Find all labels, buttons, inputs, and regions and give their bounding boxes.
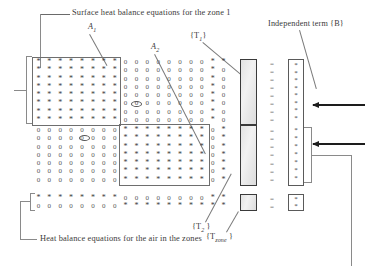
matrix-cell: 0 <box>218 66 229 74</box>
matrix-cell: * <box>98 194 109 202</box>
matrix-cell: 0 <box>218 91 229 99</box>
right-bracket-stem <box>311 155 351 156</box>
matrix-cell: 0 <box>77 143 88 151</box>
matrix-cell: 0 <box>142 116 153 124</box>
matrix-cell: 0 <box>196 116 207 124</box>
block1-bracket-vertical <box>26 56 27 124</box>
equals-sign: = <box>270 127 274 135</box>
matrix-cell: 0 <box>98 167 109 175</box>
matrix-cell: 0 <box>175 108 186 116</box>
block1-bracket-stem <box>14 90 26 91</box>
vector-t-lower <box>240 125 257 186</box>
matrix-cell: 0 <box>33 143 44 151</box>
matrix-cell: 0 <box>218 108 229 116</box>
matrix-cell: 0 <box>66 151 77 159</box>
matrix-cell: * <box>142 202 153 210</box>
matrix-cell: 0 <box>66 167 77 175</box>
figure-canvas: Surface heat balance equations for the z… <box>0 0 370 266</box>
matrix-label-a2: A2 <box>151 42 159 53</box>
equals-sign: = <box>270 195 274 203</box>
bottom-caption-bracket-vertical <box>20 201 21 239</box>
matrix-cell: 0 <box>55 151 66 159</box>
matrix-cell: 0 <box>66 176 77 184</box>
matrix-cell: * <box>207 116 218 124</box>
matrix-cell: 0 <box>120 66 131 74</box>
matrix-cell: 0 <box>185 83 196 91</box>
vector-label-t2-close: } <box>204 222 210 231</box>
matrix-cell: 0 <box>142 108 153 116</box>
matrix-cell: 0 <box>98 143 109 151</box>
matrix-cell: 0 <box>185 58 196 66</box>
matrix-cell: 0 <box>33 151 44 159</box>
equals-sign: = <box>270 68 274 76</box>
matrix-cell: 0 <box>55 159 66 167</box>
vector-b-entry: * <box>294 135 298 142</box>
matrix-label-a1: A1 <box>88 22 96 33</box>
equals-column-bottom: == <box>267 195 277 209</box>
matrix-cell: 0 <box>120 58 131 66</box>
matrix-cell: 0 <box>142 99 153 107</box>
vector-label-t1-open: {T <box>190 31 199 40</box>
matrix-cell: 0 <box>120 108 131 116</box>
matrix-cell: * <box>33 194 44 202</box>
matrix-cell: 0 <box>77 167 88 175</box>
equals-column-upper: ======== <box>267 60 277 124</box>
matrix-cell: 0 <box>175 83 186 91</box>
matrix-cell: 0 <box>87 143 98 151</box>
right-bracket-top <box>304 127 311 128</box>
equals-sign: = <box>270 92 274 100</box>
matrix-cell: * <box>55 194 66 202</box>
matrix-cell: 0 <box>33 167 44 175</box>
matrix-cell: 0 <box>44 176 55 184</box>
matrix-label-a1-subscript: 1 <box>93 27 96 33</box>
vector-b-entry: * <box>294 203 298 210</box>
matrix-cell: 0 <box>66 202 77 210</box>
equals-sign: = <box>270 116 274 124</box>
matrix-cell: 0 <box>33 134 44 142</box>
matrix-cell: 0 <box>98 134 109 142</box>
zero-highlight-ellipse-upper <box>131 101 142 107</box>
matrix-cell: 0 <box>44 167 55 175</box>
equals-sign: = <box>270 135 274 143</box>
matrix-cell: * <box>109 194 120 202</box>
matrix-cell: 0 <box>164 83 175 91</box>
matrix-cell: 0 <box>44 202 55 210</box>
matrix-cell: * <box>66 194 77 202</box>
matrix-cell: 0 <box>218 116 229 124</box>
matrix-cell: 0 <box>77 151 88 159</box>
vector-label-t1: {T1} <box>190 31 206 42</box>
matrix-cell: 0 <box>55 134 66 142</box>
matrix-cell: * <box>185 202 196 210</box>
matrix-cell: 0 <box>44 151 55 159</box>
arrow-lower <box>313 143 365 145</box>
matrix-cell: 0 <box>131 91 142 99</box>
equals-sign: = <box>270 76 274 84</box>
matrix-cell: 0 <box>98 202 109 210</box>
equals-sign: = <box>270 108 274 116</box>
matrix-cell: 0 <box>131 58 142 66</box>
top-caption-leader <box>40 14 70 15</box>
matrix-cell: 0 <box>142 66 153 74</box>
matrix-cell: 0 <box>66 143 77 151</box>
block3-bracket-bottom <box>30 210 35 211</box>
matrix-cell: 0 <box>77 176 88 184</box>
matrix-cell: 0 <box>185 99 196 107</box>
vector-label-tzone-close: } <box>227 232 233 241</box>
equals-sign: = <box>270 176 274 184</box>
matrix-cell: 0 <box>185 108 196 116</box>
matrix-cell: 0 <box>218 83 229 91</box>
submatrix-a2-outline <box>119 124 210 186</box>
matrix-cell: 0 <box>196 66 207 74</box>
matrix-cell: 0 <box>120 91 131 99</box>
matrix-cell: 0 <box>131 83 142 91</box>
matrix-cell: 0 <box>87 202 98 210</box>
matrix-cell: 0 <box>142 83 153 91</box>
block3-bracket-stem <box>20 201 30 202</box>
matrix-cell: 0 <box>77 159 88 167</box>
matrix-cell: * <box>77 194 88 202</box>
matrix-cell: 0 <box>66 159 77 167</box>
matrix-cell: * <box>218 58 229 66</box>
independent-term-label: Independent term {B} <box>268 19 344 28</box>
matrix-cell: 0 <box>153 99 164 107</box>
vector-label-t2-open: {T <box>192 222 201 231</box>
